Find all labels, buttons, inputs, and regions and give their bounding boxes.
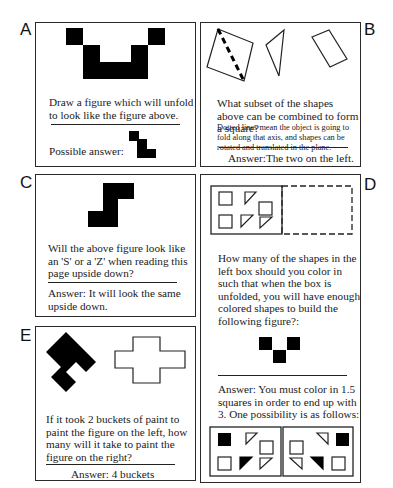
panel-e-answer: Answer: 4 buckets — [71, 468, 154, 481]
panel-c-answer: Answer: It will look the same upside dow… — [48, 287, 193, 312]
panel-a: Draw a figure which will unfold to look … — [35, 22, 196, 167]
panel-d: How many of the shapes in the left box s… — [200, 174, 361, 483]
panel-b-note: Dotted lines mean the object is going to… — [217, 123, 362, 153]
panel-d-answer-fold-box — [201, 175, 362, 484]
panel-e-divider — [46, 464, 175, 465]
panel-b-answer: Answer:The two on the left. — [228, 152, 354, 165]
panel-c-label: C — [20, 173, 32, 193]
panel-e-question: If it took 2 buckets of paint to paint t… — [46, 413, 191, 463]
panel-c-divider — [48, 282, 177, 283]
panel-b: What subset of the shapes above can be c… — [200, 22, 361, 167]
panel-e: If it took 2 buckets of paint to paint t… — [35, 326, 196, 481]
panel-c: Will the above figure look like an 'S' o… — [35, 174, 196, 317]
panel-b-divider — [219, 147, 348, 148]
panel-b-label: B — [364, 20, 375, 40]
panel-d-label: D — [364, 175, 376, 195]
panel-a-label: A — [20, 20, 31, 40]
panel-c-question: Will the above figure look like an 'S' o… — [48, 242, 193, 280]
panel-e-label: E — [20, 326, 31, 346]
panel-a-answer-figure — [36, 23, 197, 168]
